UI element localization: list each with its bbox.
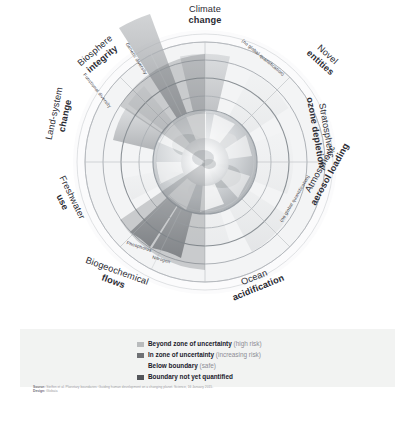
legend-label-beyond-zone: Beyond zone of uncertainty (high risk) (148, 340, 262, 348)
source-credits: Source: Steffen et al. Planetary boundar… (33, 385, 373, 394)
label-climate-change: Climate change (158, 4, 252, 25)
boundary-wheel-diagram: Climate change Novel entities Stratosphe… (0, 0, 410, 330)
legend-item-in-zone: In zone of uncertainty (increasing risk) (137, 351, 387, 360)
legend-swatch-below-boundary (137, 364, 144, 369)
legend: Beyond zone of uncertainty (high risk) I… (137, 340, 387, 384)
legend-item-beyond-zone: Beyond zone of uncertainty (high risk) (137, 340, 387, 349)
planetary-boundaries-figure: Climate change Novel entities Stratosphe… (0, 0, 410, 421)
legend-swatch-beyond-zone (137, 342, 144, 347)
legend-label-in-zone: In zone of uncertainty (increasing risk) (148, 351, 261, 359)
design-line: Design: Globaïa (33, 389, 373, 393)
legend-swatch-in-zone (137, 353, 144, 358)
legend-item-not-quantified: Boundary not yet quantified (137, 373, 387, 382)
legend-swatch-not-quantified (137, 375, 144, 380)
legend-label-not-quantified: Boundary not yet quantified (148, 373, 233, 381)
legend-label-below-boundary: Below boundary (safe) (148, 362, 216, 370)
legend-item-below-boundary: Below boundary (safe) (137, 362, 387, 371)
